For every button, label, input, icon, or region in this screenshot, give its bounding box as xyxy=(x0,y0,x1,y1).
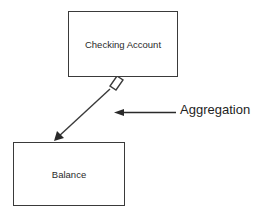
aggregation-edge xyxy=(58,89,110,137)
class-label-balance: Balance xyxy=(52,169,86,180)
class-box-checking-account: Checking Account xyxy=(68,11,178,77)
class-box-balance: Balance xyxy=(13,142,125,206)
annotation-label-aggregation: Aggregation xyxy=(180,102,250,117)
diagram-canvas: Checking Account Balance Aggregation xyxy=(0,0,259,215)
class-label-checking-account: Checking Account xyxy=(85,39,161,50)
aggregation-diamond-icon xyxy=(110,76,123,90)
arrow-left-icon xyxy=(114,109,176,116)
